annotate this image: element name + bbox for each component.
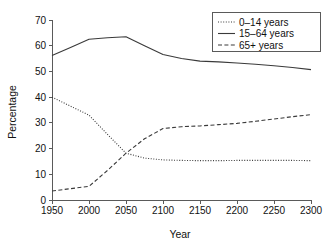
x-tick-label: 2300 (300, 205, 323, 216)
x-tick-label: 2150 (189, 205, 212, 216)
x-tick-label: 2000 (78, 205, 101, 216)
data-series (52, 37, 311, 191)
y-tick-label: 60 (35, 40, 47, 51)
x-tick-label: 2250 (263, 205, 286, 216)
y-tick-label: 50 (35, 66, 47, 77)
legend-label: 65+ years (239, 40, 283, 51)
y-axis-ticks: 010203040506070 (35, 15, 52, 206)
x-tick-label: 2100 (152, 205, 175, 216)
legend: 0–14 years15–64 years65+ years (212, 12, 320, 51)
x-axis-title: Year (169, 228, 191, 240)
series-line-dotted (52, 97, 311, 161)
x-tick-label: 2050 (115, 205, 138, 216)
y-tick-label: 20 (35, 143, 47, 154)
y-tick-label: 10 (35, 169, 47, 180)
series-line-dashed (52, 115, 311, 191)
legend-label: 0–14 years (239, 17, 288, 28)
x-tick-label: 1950 (41, 205, 64, 216)
chart-container: 010203040506070 195020002050210021502200… (0, 0, 332, 244)
line-chart: 010203040506070 195020002050210021502200… (0, 0, 332, 244)
legend-label: 15–64 years (239, 28, 294, 39)
y-tick-label: 0 (40, 195, 46, 206)
y-tick-label: 30 (35, 117, 47, 128)
y-axis-title: Percentage (6, 85, 18, 139)
x-axis-ticks: 19502000205021002150220022502300 (41, 200, 323, 216)
y-tick-label: 40 (35, 92, 47, 103)
y-tick-label: 70 (35, 15, 47, 26)
x-tick-label: 2200 (226, 205, 249, 216)
